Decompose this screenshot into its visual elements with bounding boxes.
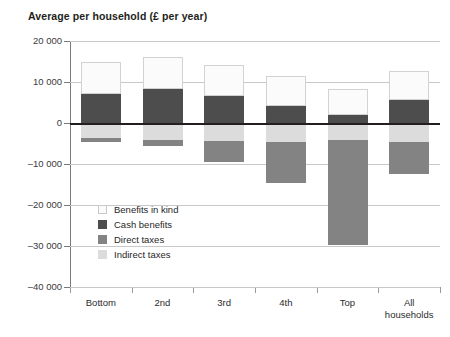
bar-segment — [143, 89, 183, 123]
x-axis-category-label-line: Bottom — [70, 297, 132, 309]
bar-segment — [266, 106, 306, 123]
legend-item-label: Benefits in kind — [114, 204, 178, 215]
legend-swatch-direct-icon — [98, 235, 107, 244]
bar-segment — [81, 62, 121, 94]
bar-segment — [81, 138, 121, 142]
x-axis-category-label-line: Top — [317, 297, 379, 309]
y-axis-tick-label-wrap: 20 000 — [0, 35, 62, 47]
legend-item-label: Direct taxes — [114, 234, 164, 245]
bar-segment — [266, 123, 306, 142]
y-axis-tick-label: 20 000 — [2, 35, 62, 46]
gridline — [70, 82, 440, 83]
y-axis-tick-label-wrap: 0 — [0, 117, 62, 129]
x-axis-tick — [440, 287, 441, 293]
legend-swatch-indirect-icon — [98, 250, 107, 259]
legend-item: Indirect taxes — [98, 247, 178, 262]
y-axis-tick-label: –20 000 — [2, 199, 62, 210]
bar-segment — [143, 57, 183, 89]
y-axis-tick-label: –30 000 — [2, 240, 62, 251]
y-axis-tick-label-wrap: –30 000 — [0, 240, 62, 252]
x-axis-category-label-line: All — [378, 297, 440, 309]
bar-segment — [81, 123, 121, 138]
bar-segment — [204, 141, 244, 162]
bar-segment — [266, 142, 306, 183]
chart-title: Average per household (£ per year) — [28, 10, 207, 22]
x-axis-category-label: 3rd — [193, 297, 255, 309]
x-axis-category-label-line: 2nd — [132, 297, 194, 309]
legend-item-label: Cash benefits — [114, 219, 172, 230]
legend-swatch-cash-icon — [98, 220, 107, 229]
bar-segment — [204, 96, 244, 123]
gridline — [70, 41, 440, 42]
x-axis-category-label: Bottom — [70, 297, 132, 309]
bar-segment — [204, 65, 244, 95]
x-axis-category-label: 4th — [255, 297, 317, 309]
chart-container: Average per household (£ per year) 20 00… — [0, 0, 450, 337]
bar-segment — [328, 140, 368, 245]
bar-segment — [389, 100, 429, 123]
x-axis-category-label-line: households — [378, 309, 440, 321]
bar-group — [204, 41, 244, 287]
zero-line — [70, 123, 440, 125]
bar-segment — [328, 89, 368, 114]
bar-group — [266, 41, 306, 287]
y-axis-tick-label-wrap: –40 000 — [0, 281, 62, 293]
legend-item: Benefits in kind — [98, 202, 178, 217]
x-axis-category-label-line: 4th — [255, 297, 317, 309]
x-axis-category-label: Top — [317, 297, 379, 309]
bar-segment — [81, 94, 121, 123]
bar-segment — [328, 123, 368, 140]
x-axis-category-label-line: 3rd — [193, 297, 255, 309]
gridline — [70, 287, 440, 288]
bar-group — [389, 41, 429, 287]
legend-item: Cash benefits — [98, 217, 178, 232]
bar-segment — [389, 123, 429, 142]
y-axis-tick-label-wrap: 10 000 — [0, 76, 62, 88]
bar-segment — [143, 140, 183, 146]
bar-segment — [204, 123, 244, 141]
legend-item-label: Indirect taxes — [114, 249, 171, 260]
gridline — [70, 164, 440, 165]
bar-group — [328, 41, 368, 287]
y-axis-tick-label: 10 000 — [2, 76, 62, 87]
y-axis-tick-label: –40 000 — [2, 281, 62, 292]
y-axis-tick-label: 0 — [2, 117, 62, 128]
bar-segment — [389, 142, 429, 174]
y-axis-tick-label-wrap: –20 000 — [0, 199, 62, 211]
y-axis-tick-label-wrap: –10 000 — [0, 158, 62, 170]
bar-segment — [143, 123, 183, 140]
x-axis-category-label: Allhouseholds — [378, 297, 440, 320]
bar-segment — [328, 115, 368, 123]
chart-legend: Benefits in kindCash benefitsDirect taxe… — [98, 202, 178, 262]
bar-segment — [266, 76, 306, 106]
x-axis-category-label: 2nd — [132, 297, 194, 309]
legend-item: Direct taxes — [98, 232, 178, 247]
legend-swatch-kind-icon — [98, 205, 107, 214]
bar-segment — [389, 71, 429, 100]
y-axis-tick-label: –10 000 — [2, 158, 62, 169]
